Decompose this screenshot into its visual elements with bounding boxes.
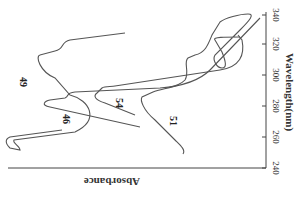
tick-label-240: 240 xyxy=(271,161,281,175)
series-label-54: 54 xyxy=(114,98,125,108)
tick-label-280: 280 xyxy=(271,99,281,113)
series-49-curve xyxy=(6,33,125,150)
tick-label-260: 260 xyxy=(271,130,281,144)
series-label-49: 49 xyxy=(18,77,29,87)
tick-label-340: 340 xyxy=(271,8,281,22)
tick-label-300: 300 xyxy=(271,68,281,82)
series-46-curve xyxy=(44,18,260,127)
absorbance-axis-title: Absorbance xyxy=(84,176,140,188)
wavelength-axis-title: Wavelength(nm) xyxy=(283,53,296,132)
absorbance-spectra-chart: 340 320 300 280 260 240 Wavelength(nm) A… xyxy=(0,0,297,197)
wavelength-ticks xyxy=(262,15,266,168)
series-label-46: 46 xyxy=(61,114,72,124)
tick-label-320: 320 xyxy=(271,37,281,51)
series-label-51: 51 xyxy=(168,116,179,126)
series-51-curve xyxy=(141,14,251,154)
